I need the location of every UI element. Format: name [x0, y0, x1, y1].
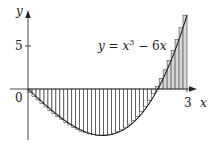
riemann-rectangle	[151, 89, 155, 94]
riemann-rectangle	[56, 89, 60, 117]
riemann-rectangle	[163, 70, 167, 89]
riemann-rectangle	[64, 89, 68, 122]
y-axis-label: y	[15, 4, 23, 18]
riemann-rectangle	[139, 89, 143, 112]
riemann-rectangle	[123, 89, 127, 127]
riemann-rectangle	[147, 89, 151, 100]
riemann-rectangle	[175, 39, 179, 89]
riemann-rectangle	[131, 89, 135, 121]
x-tick-label-0: 0	[15, 91, 23, 105]
riemann-rectangle	[88, 89, 92, 134]
y-axis-arrow-icon	[25, 10, 30, 18]
x-tick-label-3: 3	[184, 96, 192, 110]
riemann-rectangle	[80, 89, 84, 131]
x-axis-label: x	[200, 96, 207, 110]
riemann-rectangle	[119, 89, 123, 130]
equation-label: y = x3 − 6x	[97, 38, 167, 53]
riemann-rectangle	[76, 89, 80, 129]
riemann-rectangle	[135, 89, 139, 116]
x-axis-arrow-icon	[189, 86, 197, 91]
riemann-rectangle	[115, 89, 119, 132]
riemann-rectangle	[84, 89, 88, 133]
riemann-rectangle	[96, 89, 100, 135]
riemann-rectangle	[100, 89, 104, 135]
riemann-rectangle	[92, 89, 96, 135]
riemann-rectangle	[127, 89, 131, 124]
riemann-rectangle	[143, 89, 147, 106]
riemann-rectangle	[60, 89, 64, 120]
riemann-rectangle	[111, 89, 115, 133]
y-tick-label-5: 5	[15, 39, 23, 53]
riemann-rectangle	[52, 89, 56, 114]
riemann-rectangle	[68, 89, 72, 125]
riemann-sum-chart: y 5 0 3 x y = x3 − 6x	[0, 0, 219, 150]
riemann-rectangle	[72, 89, 76, 127]
riemann-rectangle	[108, 89, 112, 134]
riemann-rectangle	[104, 89, 108, 135]
riemann-rectangles	[28, 15, 187, 135]
